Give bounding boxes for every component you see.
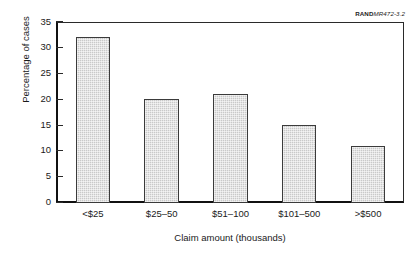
y-axis-tick-label: 10	[11, 145, 51, 154]
bar-slot	[265, 22, 334, 203]
bar	[282, 125, 316, 202]
bar-slot	[127, 22, 196, 203]
bar-series	[59, 22, 403, 203]
bar	[76, 37, 110, 202]
x-axis-title: Claim amount (thousands)	[56, 232, 404, 243]
x-axis-tick-label: $51–100	[196, 208, 265, 220]
bar-slot	[334, 22, 403, 203]
y-axis-tick-label: 30	[11, 42, 51, 51]
rand-document-id: MR472-3.2	[373, 10, 405, 17]
x-axis-tick-label: $101–500	[265, 208, 334, 220]
y-axis-tick-label: 25	[11, 68, 51, 77]
bar	[213, 94, 247, 202]
x-axis-tick-label: $25–50	[127, 208, 196, 220]
y-axis-tick-label-wrap: 5	[8, 171, 51, 181]
y-axis-tick-label-wrap: 0	[8, 197, 51, 207]
y-axis-title: Percentage of cases	[20, 0, 31, 140]
bar-slot	[196, 22, 265, 203]
x-axis-tick-label: <$25	[59, 208, 128, 220]
bar-slot	[59, 22, 128, 203]
y-axis-tick-label: 20	[11, 94, 51, 103]
rand-brand-label: RAND	[355, 10, 373, 17]
y-axis-tick-label: 5	[11, 171, 51, 180]
y-axis-tick-label: 0	[11, 197, 51, 206]
bar	[351, 146, 385, 203]
y-axis-tick-label-wrap: 10	[8, 145, 51, 155]
x-axis-tick-labels: <$25$25–50$51–100$101–500>$500	[59, 208, 403, 222]
corner-source-tag: RANDMR472-3.2	[355, 10, 405, 18]
y-axis-tick-label: 35	[11, 17, 51, 26]
figure-container: RANDMR472-3.2 Percentage of cases 051015…	[0, 0, 415, 259]
y-axis-tick-label: 15	[11, 120, 51, 129]
bar	[144, 99, 178, 202]
x-axis-tick-label: >$500	[334, 208, 403, 220]
